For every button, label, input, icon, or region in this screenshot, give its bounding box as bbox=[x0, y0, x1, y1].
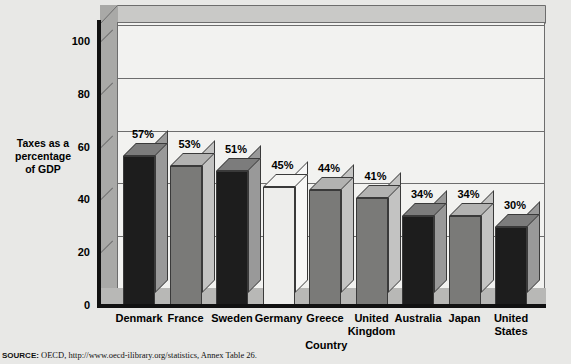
plot-left-wall bbox=[100, 5, 118, 306]
y-tick-label-80: 80 bbox=[62, 88, 90, 100]
x-axis-label-united-states: UnitedStates bbox=[484, 312, 538, 338]
bar-value-label-united-states: 30% bbox=[499, 199, 531, 211]
bar-france bbox=[170, 166, 202, 306]
y-axis-line bbox=[97, 20, 101, 308]
bar-australia bbox=[402, 216, 434, 306]
bar-front-face bbox=[263, 187, 295, 306]
bar-germany bbox=[263, 187, 295, 306]
source-text: OECD, http://www.oecd-ilibrary.org/stati… bbox=[41, 350, 257, 360]
gridline-60 bbox=[117, 131, 545, 132]
source-note: SOURCE: OECD, http://www.oecd-ilibrary.o… bbox=[2, 350, 257, 360]
x-label-line: Kingdom bbox=[345, 325, 399, 338]
x-label-line: States bbox=[484, 325, 538, 338]
source-prefix: SOURCE: bbox=[2, 351, 39, 360]
bar-value-label-france: 53% bbox=[174, 138, 206, 150]
bar-value-label-greece: 44% bbox=[313, 162, 345, 174]
bar-japan bbox=[449, 216, 481, 306]
bar-united-states bbox=[495, 227, 527, 306]
bar-front-face bbox=[495, 227, 527, 306]
y-tick-label-40: 40 bbox=[62, 193, 90, 205]
y-tick-label-0: 0 bbox=[62, 299, 90, 311]
bar-value-label-australia: 34% bbox=[406, 188, 438, 200]
bar-front-face bbox=[402, 216, 434, 306]
bar-sweden bbox=[216, 171, 248, 306]
bar-value-label-sweden: 51% bbox=[220, 143, 252, 155]
gridline-100 bbox=[117, 25, 545, 26]
bar-front-face bbox=[170, 166, 202, 306]
bar-front-face bbox=[309, 190, 341, 306]
bar-value-label-germany: 45% bbox=[267, 159, 299, 171]
bar-value-label-united-kingdom: 41% bbox=[360, 170, 392, 182]
bar-front-face bbox=[449, 216, 481, 306]
bar-front-face bbox=[216, 171, 248, 306]
bar-united-kingdom bbox=[356, 198, 388, 306]
gridline-80 bbox=[117, 78, 545, 79]
x-label-line: United bbox=[484, 312, 538, 325]
y-tick-label-20: 20 bbox=[62, 246, 90, 258]
bar-value-label-japan: 34% bbox=[453, 188, 485, 200]
chart-scene: 57%53%51%45%44%41%34%34%30% 020406080100… bbox=[0, 0, 571, 364]
bar-value-label-denmark: 57% bbox=[127, 128, 159, 140]
y-tick-label-60: 60 bbox=[62, 141, 90, 153]
plot-top-panel bbox=[100, 5, 545, 23]
x-axis-line bbox=[100, 304, 546, 308]
bar-chart: Taxes as a percentage of GDP 57%53%51%45… bbox=[0, 0, 571, 364]
bar-front-face bbox=[123, 156, 155, 306]
bar-denmark bbox=[123, 156, 155, 306]
y-tick-label-100: 100 bbox=[62, 35, 90, 47]
bar-greece bbox=[309, 190, 341, 306]
bar-front-face bbox=[356, 198, 388, 306]
